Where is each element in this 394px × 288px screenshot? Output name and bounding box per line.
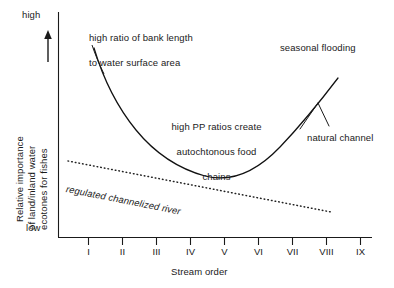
y-axis-high-label: high (22, 9, 40, 22)
x-tick-label-7: VII (280, 246, 306, 257)
x-tick-label-1: I (76, 246, 102, 257)
annotation-natural-channel: natural channel (307, 132, 373, 145)
x-tick-label-9: IX (348, 246, 374, 257)
x-axis-ticks (89, 237, 361, 245)
annotation-bank-ratio-line-2: to water surface area (89, 57, 180, 68)
x-tick-label-4: IV (178, 246, 204, 257)
annotation-seasonal-flooding: seasonal flooding (280, 42, 356, 55)
up-arrow-icon (44, 30, 52, 62)
annotation-pp-ratios-line-1: high PP ratios create (171, 121, 261, 132)
annotation-pp-ratios-line-2: autochtonous food (177, 146, 257, 157)
annotation-pp-ratios: high PP ratios create autochtonous food … (146, 108, 276, 196)
x-tick-label-3: III (144, 246, 170, 257)
x-tick-label-2: II (110, 246, 136, 257)
y-axis-title-line-3: ecotones for fishes (38, 148, 49, 230)
y-axis-title-line-2: of land/inland water (26, 146, 37, 230)
annotation-bank-ratio: high ratio of bank length to water surfa… (78, 19, 193, 82)
x-tick-label-5: V (212, 246, 238, 257)
annotation-bank-ratio-line-1: high ratio of bank length (89, 32, 193, 43)
y-axis-title-line-1: Relative importance (14, 136, 25, 222)
x-axis-title: Stream order (171, 266, 228, 279)
x-tick-label-6: VI (246, 246, 272, 257)
annotation-pp-ratios-line-3: chains (202, 171, 230, 182)
x-tick-label-8: VIII (314, 246, 340, 257)
stream-order-figure: high low Relative importance of land/inl… (0, 0, 394, 288)
